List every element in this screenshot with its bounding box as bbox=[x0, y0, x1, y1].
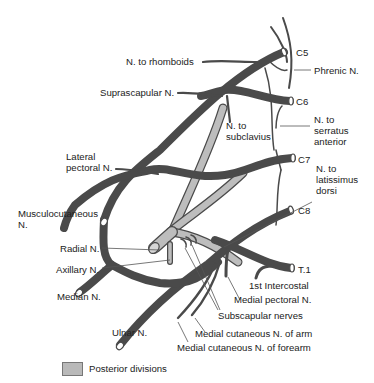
label-radial: Radial N. bbox=[60, 243, 99, 254]
n-subclavius-branch bbox=[227, 96, 230, 122]
label-med-cut-forearm: Medial cutaneous N. of forearm bbox=[177, 342, 311, 353]
n-rhomboids-branch bbox=[203, 61, 257, 62]
legend-label-posterior-divisions: Posterior divisions bbox=[89, 363, 167, 374]
label-n-latissimus-3: dorsi bbox=[316, 185, 337, 196]
first-intercostal-branch bbox=[256, 266, 272, 278]
label-c7: C7 bbox=[298, 154, 310, 165]
leader-med-cut-forearm bbox=[178, 322, 188, 342]
label-lateral-pectoral-2: pectoral N. bbox=[66, 162, 112, 173]
c7-end bbox=[291, 154, 295, 162]
label-n-rhomboids: N. to rhomboids bbox=[126, 56, 194, 67]
label-phrenic: Phrenic N. bbox=[314, 65, 359, 76]
label-median: Median N. bbox=[57, 291, 101, 302]
label-c6: C6 bbox=[296, 96, 308, 107]
label-n-subclavius-2: subclavius bbox=[226, 131, 271, 142]
label-c5: C5 bbox=[296, 47, 308, 58]
label-t1: T.1 bbox=[298, 264, 311, 275]
label-musculocutaneous-1: Musculocutaneous bbox=[18, 208, 98, 219]
label-c8: C8 bbox=[298, 205, 310, 216]
medial-pectoral-branch bbox=[226, 250, 228, 276]
label-n-serratus-1: N. to bbox=[314, 114, 334, 125]
legend-swatch-posterior-divisions bbox=[62, 362, 83, 376]
label-medial-pectoral: Medial pectoral N. bbox=[234, 294, 311, 305]
label-lateral-pectoral-1: Lateral bbox=[66, 151, 95, 162]
label-ulnar: Ulnar N. bbox=[112, 327, 147, 338]
t1-end bbox=[290, 264, 294, 272]
label-med-cut-arm: Medial cutaneous N. of arm bbox=[195, 328, 312, 339]
label-musculocutaneous-2: N. bbox=[18, 219, 28, 230]
label-n-latissimus-2: latissimus bbox=[316, 174, 358, 185]
label-suprascapular: Suprascapular N. bbox=[100, 87, 174, 98]
label-subscapular: Subscapular nerves bbox=[218, 310, 303, 321]
median-lateral-root bbox=[103, 220, 218, 283]
label-n-serratus-2: serratus bbox=[314, 125, 349, 136]
serratus-fiber-2 bbox=[276, 106, 282, 128]
label-axillary: Axillary N. bbox=[56, 264, 99, 275]
label-n-subclavius-1: N. to bbox=[226, 120, 246, 131]
c6-end bbox=[289, 97, 293, 105]
subscapular-hook-1 bbox=[181, 239, 186, 247]
label-n-serratus-3: anterior bbox=[314, 136, 347, 147]
label-first-intercostal: 1st Intercostal bbox=[249, 280, 309, 291]
label-n-latissimus-1: N. to bbox=[316, 163, 336, 174]
